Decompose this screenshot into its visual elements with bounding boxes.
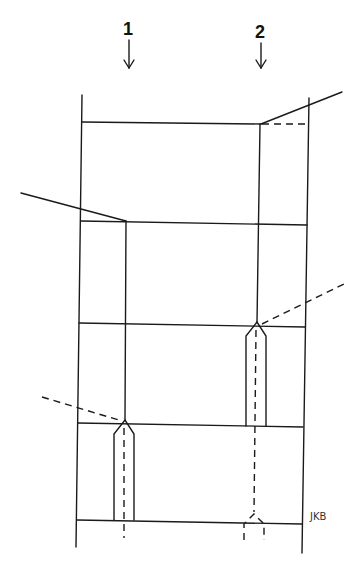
dashed-diagonal-right: [262, 284, 344, 324]
layer-line-2: [81, 221, 307, 225]
diagram-canvas: 1 2 JKB: [0, 0, 359, 567]
tube-2-bottom-dashed: [244, 514, 264, 540]
marker-2-label: 2: [255, 22, 265, 42]
layer-line-3: [79, 323, 305, 327]
signature: JKB: [309, 511, 327, 522]
marker-1: 1: [123, 19, 134, 68]
tube-2-center-dashed: [254, 330, 256, 512]
marker-2: 2: [255, 22, 266, 68]
tube-2: [246, 322, 266, 512]
marker-1-label: 1: [123, 19, 133, 39]
diagonal-top-right: [261, 92, 342, 124]
vertical-line-1: [125, 221, 126, 420]
layer-line-5: [77, 520, 302, 524]
vertical-line-2: [257, 124, 260, 322]
layer-line-4: [78, 423, 303, 427]
left-wall: [76, 95, 82, 547]
tube-2-bottom: [244, 514, 264, 540]
layer-line-1: [82, 122, 261, 124]
dashed-diagonal-left: [42, 397, 122, 421]
diagonal-left: [21, 193, 126, 221]
tube-2-outline: [246, 322, 266, 426]
right-wall: [302, 98, 309, 553]
